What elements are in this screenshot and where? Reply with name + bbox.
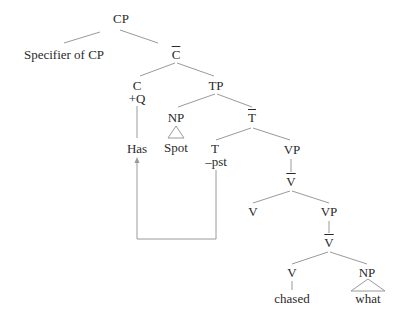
word-spot: Spot (164, 141, 188, 155)
node-tp: TP (208, 79, 223, 93)
node-v-bar-upper: V (286, 175, 295, 189)
node-v-upper: V (248, 205, 257, 219)
word-has: Has (127, 142, 147, 156)
word-what: what (355, 292, 380, 306)
node-v-lower: V (287, 266, 296, 280)
node-v-bar-lower: V (324, 236, 333, 250)
node-np-object: NP (359, 266, 376, 280)
node-vp-upper: VP (284, 143, 301, 157)
feature-minus-pst: –pst (205, 155, 227, 169)
node-vp-lower: VP (321, 205, 338, 219)
node-np-subject: NP (168, 111, 185, 125)
word-chased: chased (274, 292, 309, 306)
feature-plus-q: +Q (129, 92, 146, 106)
node-cp: CP (113, 12, 129, 26)
node-specifier-of-cp: Specifier of CP (24, 48, 104, 62)
node-t-bar: T (248, 111, 256, 125)
node-c-bar: C (172, 48, 181, 62)
